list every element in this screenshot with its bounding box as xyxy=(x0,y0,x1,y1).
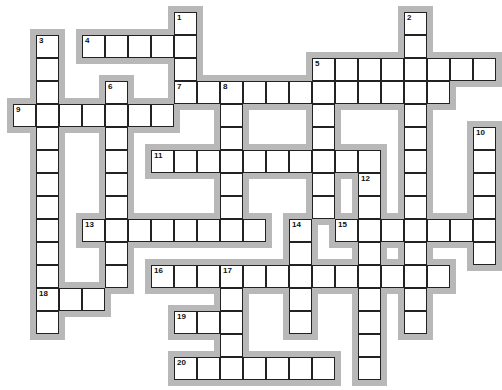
grid-cell[interactable] xyxy=(151,104,174,127)
grid-cell[interactable] xyxy=(174,35,197,58)
grid-cell[interactable] xyxy=(243,219,266,242)
grid-cell[interactable] xyxy=(243,357,266,380)
grid-cell[interactable]: 3 xyxy=(36,35,59,58)
grid-cell[interactable] xyxy=(59,288,82,311)
grid-cell[interactable] xyxy=(404,35,427,58)
grid-cell[interactable] xyxy=(105,219,128,242)
grid-cell[interactable] xyxy=(197,81,220,104)
grid-cell[interactable] xyxy=(266,81,289,104)
grid-cell[interactable] xyxy=(59,104,82,127)
grid-cell[interactable] xyxy=(312,265,335,288)
grid-cell[interactable] xyxy=(358,58,381,81)
grid-cell[interactable] xyxy=(266,265,289,288)
grid-cell[interactable] xyxy=(174,219,197,242)
grid-cell[interactable] xyxy=(36,127,59,150)
grid-cell[interactable]: 11 xyxy=(151,150,174,173)
grid-cell[interactable] xyxy=(404,173,427,196)
grid-cell[interactable] xyxy=(358,242,381,265)
grid-cell[interactable] xyxy=(151,219,174,242)
grid-cell[interactable] xyxy=(289,288,312,311)
grid-cell[interactable] xyxy=(312,150,335,173)
grid-cell[interactable] xyxy=(427,265,450,288)
grid-cell[interactable] xyxy=(220,196,243,219)
grid-cell[interactable] xyxy=(220,311,243,334)
grid-cell[interactable] xyxy=(473,150,496,173)
grid-cell[interactable] xyxy=(427,81,450,104)
grid-cell[interactable] xyxy=(427,219,450,242)
grid-cell[interactable] xyxy=(404,288,427,311)
grid-cell[interactable] xyxy=(404,104,427,127)
grid-cell[interactable] xyxy=(105,104,128,127)
grid-cell[interactable] xyxy=(243,81,266,104)
grid-cell[interactable] xyxy=(289,81,312,104)
grid-cell[interactable] xyxy=(358,196,381,219)
grid-cell[interactable] xyxy=(36,58,59,81)
grid-cell[interactable] xyxy=(289,311,312,334)
grid-cell[interactable] xyxy=(358,311,381,334)
grid-cell[interactable] xyxy=(312,81,335,104)
grid-cell[interactable]: 8 xyxy=(220,81,243,104)
grid-cell[interactable] xyxy=(174,265,197,288)
grid-cell[interactable] xyxy=(174,150,197,173)
grid-cell[interactable] xyxy=(82,104,105,127)
grid-cell[interactable] xyxy=(404,311,427,334)
grid-cell[interactable] xyxy=(36,219,59,242)
grid-cell[interactable] xyxy=(220,127,243,150)
grid-cell[interactable] xyxy=(473,242,496,265)
grid-cell[interactable] xyxy=(220,150,243,173)
grid-cell[interactable] xyxy=(36,311,59,334)
grid-cell[interactable] xyxy=(404,265,427,288)
grid-cell[interactable] xyxy=(289,150,312,173)
grid-cell[interactable] xyxy=(381,58,404,81)
grid-cell[interactable] xyxy=(36,104,59,127)
grid-cell[interactable] xyxy=(404,242,427,265)
grid-cell[interactable] xyxy=(220,357,243,380)
grid-cell[interactable] xyxy=(335,81,358,104)
grid-cell[interactable] xyxy=(358,81,381,104)
grid-cell[interactable] xyxy=(358,288,381,311)
grid-cell[interactable]: 17 xyxy=(220,265,243,288)
grid-cell[interactable] xyxy=(36,242,59,265)
grid-cell[interactable] xyxy=(289,357,312,380)
grid-cell[interactable] xyxy=(36,196,59,219)
grid-cell[interactable]: 13 xyxy=(82,219,105,242)
grid-cell[interactable] xyxy=(358,334,381,357)
grid-cell[interactable]: 16 xyxy=(151,265,174,288)
grid-cell[interactable] xyxy=(381,219,404,242)
grid-cell[interactable] xyxy=(450,58,473,81)
grid-cell[interactable] xyxy=(105,173,128,196)
grid-cell[interactable] xyxy=(404,150,427,173)
grid-cell[interactable]: 10 xyxy=(473,127,496,150)
grid-cell[interactable] xyxy=(36,150,59,173)
grid-cell[interactable]: 12 xyxy=(358,173,381,196)
grid-cell[interactable] xyxy=(289,242,312,265)
grid-cell[interactable] xyxy=(243,150,266,173)
grid-cell[interactable]: 4 xyxy=(82,35,105,58)
grid-cell[interactable] xyxy=(473,58,496,81)
grid-cell[interactable] xyxy=(266,150,289,173)
grid-cell[interactable]: 14 xyxy=(289,219,312,242)
grid-cell[interactable] xyxy=(220,219,243,242)
grid-cell[interactable] xyxy=(220,288,243,311)
grid-cell[interactable]: 15 xyxy=(335,219,358,242)
grid-cell[interactable] xyxy=(335,265,358,288)
grid-cell[interactable] xyxy=(197,150,220,173)
grid-cell[interactable] xyxy=(473,196,496,219)
grid-cell[interactable] xyxy=(105,150,128,173)
grid-cell[interactable] xyxy=(105,196,128,219)
grid-cell[interactable]: 6 xyxy=(105,81,128,104)
grid-cell[interactable] xyxy=(312,104,335,127)
grid-cell[interactable] xyxy=(220,173,243,196)
grid-cell[interactable] xyxy=(358,265,381,288)
grid-cell[interactable] xyxy=(404,219,427,242)
grid-cell[interactable] xyxy=(128,104,151,127)
grid-cell[interactable] xyxy=(312,196,335,219)
grid-cell[interactable] xyxy=(404,81,427,104)
grid-cell[interactable]: 18 xyxy=(36,288,59,311)
grid-cell[interactable] xyxy=(105,242,128,265)
grid-cell[interactable]: 19 xyxy=(174,311,197,334)
grid-cell[interactable] xyxy=(128,219,151,242)
grid-cell[interactable] xyxy=(220,334,243,357)
grid-cell[interactable] xyxy=(105,35,128,58)
grid-cell[interactable] xyxy=(197,265,220,288)
